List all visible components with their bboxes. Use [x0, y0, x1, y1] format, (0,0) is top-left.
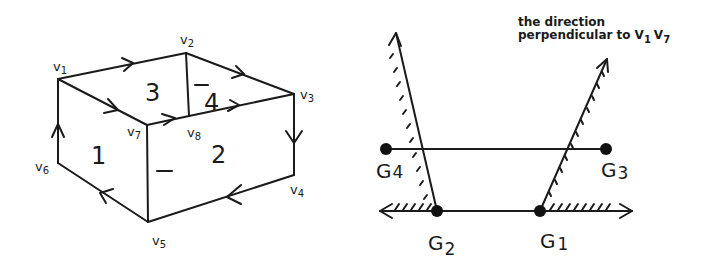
point-label-g1: G1 [540, 229, 568, 254]
edge-v2-v3 [186, 53, 294, 94]
point-g1 [534, 205, 546, 217]
vertex-label-v1: v1 [53, 59, 67, 76]
face-label-2: 2 [211, 141, 226, 169]
vertex-label-v6: v6 [35, 159, 49, 176]
point-g3 [600, 143, 612, 155]
caption-line-2: perpendicular toV1V7 [518, 28, 670, 45]
point-g2 [431, 205, 443, 217]
edge-v1-v2 [58, 53, 186, 79]
ray-g2-arrow-icon [389, 33, 401, 46]
point-label-g2: G2 [428, 231, 455, 259]
vertex-label-v3: v3 [300, 87, 314, 104]
edge-v4-v5 [148, 175, 294, 222]
point-g4 [380, 143, 392, 155]
vertex-label-v7: v7 [127, 124, 141, 141]
vertex-label-v5: v5 [152, 233, 166, 250]
face-label-1: 1 [91, 142, 106, 170]
caption-line-1: the direction [518, 15, 605, 29]
vertex-label-v2: v2 [180, 32, 194, 49]
diagram-canvas: v1 v2 v3 v4 v5 v6 v7 v8 1 2 3 4 the dire… [0, 0, 706, 271]
vertex-label-v4: v4 [290, 182, 304, 199]
hatching-axis-left [395, 204, 431, 210]
edge-v7-v5 [147, 125, 148, 222]
ray-g1 [540, 59, 607, 211]
polyhedral-complex: v1 v2 v3 v4 v5 v6 v7 v8 1 2 3 4 [35, 32, 314, 250]
normal-cone-diagram: the direction perpendicular toV1V7 [376, 15, 670, 259]
arrow-v8-v3-icon [228, 100, 239, 111]
hatching-axis-right [550, 204, 610, 210]
ray-g2 [396, 33, 437, 211]
edge-v1-v7 [58, 79, 147, 125]
face-label-4: 4 [204, 89, 219, 117]
hatching-right-ray [549, 72, 604, 196]
vertex-label-v8: v8 [187, 125, 201, 142]
face-label-3: 3 [145, 79, 160, 107]
point-label-g4: G4 [376, 159, 403, 183]
point-label-g3: G3 [601, 158, 628, 183]
edge-v2-v8 [186, 53, 189, 116]
edge-v7-v8 [147, 116, 189, 125]
